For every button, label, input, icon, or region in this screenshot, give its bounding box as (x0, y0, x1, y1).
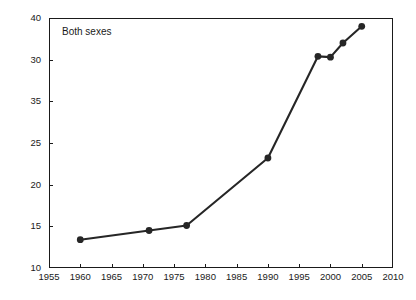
y-tick-label: 30 (30, 54, 41, 66)
x-tick-label: 2010 (373, 271, 413, 283)
panel-label: Both sexes (62, 26, 111, 37)
y-tick-label: 15 (30, 220, 41, 232)
plot-frame (49, 18, 393, 268)
y-tick-label: 40 (30, 12, 41, 24)
y-tick-label: 25 (30, 137, 41, 149)
y-tick-label: 35 (30, 95, 41, 107)
chart-figure: % with BMI ≥30 40303525201510 1955196019… (0, 0, 416, 300)
y-tick-label: 20 (30, 179, 41, 191)
